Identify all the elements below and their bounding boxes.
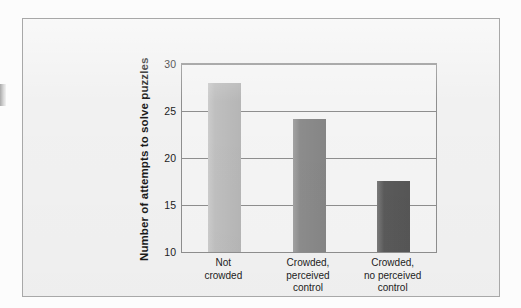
x-tick-label-1: Not crowded bbox=[181, 257, 266, 282]
bar-1 bbox=[208, 83, 241, 252]
x-tick-label-3: Crowded, no perceived control bbox=[350, 257, 435, 295]
bar-shading bbox=[208, 83, 241, 252]
y-axis-title: Number of attempts to solve puzzles bbox=[136, 61, 152, 261]
figure-frame: Number of attempts to solve puzzles 1015… bbox=[22, 18, 500, 297]
y-tick-label-25: 25 bbox=[164, 105, 176, 117]
bar-shading bbox=[377, 181, 410, 252]
y-tick-label-30: 30 bbox=[164, 58, 176, 70]
x-tick-label-2: Crowded, perceived control bbox=[266, 257, 351, 295]
y-tick-label-10: 10 bbox=[164, 246, 176, 258]
scan-artifact bbox=[0, 84, 6, 106]
y-tick-label-15: 15 bbox=[164, 199, 176, 211]
bar-shading bbox=[293, 119, 326, 252]
bar-3 bbox=[377, 181, 410, 252]
y-tick-label-20: 20 bbox=[164, 152, 176, 164]
bar-2 bbox=[293, 119, 326, 252]
plot-area: 1015202530 bbox=[181, 63, 437, 253]
gridline-30 bbox=[182, 64, 436, 65]
